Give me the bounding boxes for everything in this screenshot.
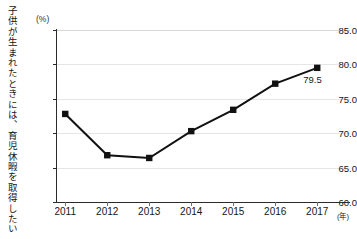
y-axis-tick-label: 65.0 [305,162,357,173]
y-axis-tick-label: 75.0 [305,93,357,104]
x-axis-tick-label: 2015 [222,206,244,217]
data-point-marker [230,107,236,113]
y-axis-line [56,29,57,203]
x-axis-line [56,202,350,203]
x-axis-tick-label: 2014 [180,206,202,217]
y-axis-tick-label: 85.0 [305,25,357,36]
data-point-marker [104,152,110,158]
data-point-marker [62,111,68,117]
chart-vertical-title: 子供が生まれたときには、育児休暇を取得したい男性 [2,6,22,234]
y-axis-unit-label: (%) [36,14,49,24]
data-point-marker [146,155,152,161]
chart-container: 子供が生まれたときには、育児休暇を取得したい男性 (%) 85.080.075.… [0,0,357,239]
data-point-marker [272,80,278,86]
y-axis-tick-label: 70.0 [305,128,357,139]
x-axis-tick-label: 2011 [54,206,76,217]
data-point-label: 79.5 [303,74,322,85]
x-axis-tick-label: 2017 [306,206,328,217]
x-axis-unit-label: (年) [337,210,349,221]
x-axis-tick-label: 2012 [96,206,118,217]
x-axis-tick-label: 2013 [138,206,160,217]
x-axis-tick-label: 2016 [264,206,286,217]
y-axis-tick-label: 80.0 [305,59,357,70]
data-series-line [0,0,357,239]
